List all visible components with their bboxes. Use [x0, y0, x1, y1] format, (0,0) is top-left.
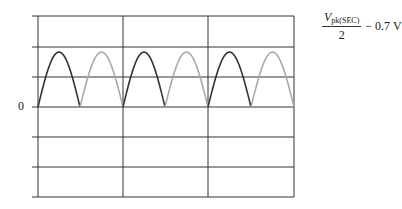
rectified-half-cycle	[123, 52, 165, 107]
formula-suffix: − 0.7 V	[365, 19, 401, 34]
peak-voltage-formula: Vpk(SEC) 2 − 0.7 V	[322, 10, 402, 43]
rectified-half-cycle	[208, 52, 251, 107]
zero-axis-label: 0	[18, 99, 24, 114]
rectified-half-cycle	[251, 52, 294, 107]
rectified-half-cycle	[80, 52, 123, 107]
rectified-half-cycle	[38, 52, 80, 107]
fraction: Vpk(SEC) 2	[322, 10, 361, 43]
fraction-numerator: Vpk(SEC)	[322, 10, 361, 27]
fraction-denominator: 2	[339, 27, 345, 43]
rectified-half-cycle	[165, 52, 208, 107]
